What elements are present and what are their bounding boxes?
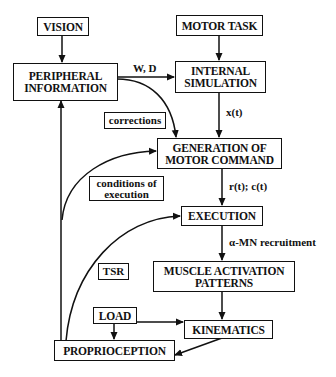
node-load-label: LOAD xyxy=(99,310,131,322)
node-vision: VISION xyxy=(37,17,89,36)
label-w-d: W, D xyxy=(133,62,156,74)
tag-corrections: corrections xyxy=(104,112,166,129)
node-execution-label: EXECUTION xyxy=(188,210,256,222)
label-alpha-mn-recruitment: α-MN recruitment xyxy=(229,236,316,248)
node-proprioception-label: PROPRIOCEPTION xyxy=(63,345,166,357)
node-kinematics: KINEMATICS xyxy=(184,320,273,339)
tag-corrections-label: corrections xyxy=(109,115,161,126)
node-kinematics-label: KINEMATICS xyxy=(192,324,265,336)
diagram-connectors xyxy=(0,0,336,377)
node-load: LOAD xyxy=(93,307,137,324)
node-proprioception: PROPRIOCEPTION xyxy=(54,340,175,361)
node-internal-simulation: INTERNAL SIMULATION xyxy=(175,61,266,93)
tag-conditions-of-execution: conditions of execution xyxy=(89,176,164,201)
tag-tsr: TSR xyxy=(98,263,129,280)
node-generation-of-motor-command: GENERATION OF MOTOR COMMAND xyxy=(157,138,282,169)
node-peripheral-information-label: PERIPHERAL INFORMATION xyxy=(24,70,107,94)
node-peripheral-information: PERIPHERAL INFORMATION xyxy=(13,63,118,101)
node-vision-label: VISION xyxy=(43,21,83,33)
tag-conditions-of-execution-label: conditions of execution xyxy=(96,178,156,200)
label-x-t: x(t) xyxy=(226,106,243,118)
node-motor-task-label: MOTOR TASK xyxy=(182,20,258,32)
node-internal-simulation-label: INTERNAL SIMULATION xyxy=(184,65,257,89)
tag-tsr-label: TSR xyxy=(103,266,124,277)
node-muscle-activation-patterns: MUSCLE ACTIVATION PATTERNS xyxy=(153,261,295,292)
arrow-kinematics-to-proprioception xyxy=(175,338,222,355)
node-muscle-activation-patterns-label: MUSCLE ACTIVATION PATTERNS xyxy=(164,265,284,289)
node-generation-of-motor-command-label: GENERATION OF MOTOR COMMAND xyxy=(165,142,274,166)
label-r-t-c-t: r(t); c(t) xyxy=(229,180,267,192)
node-execution: EXECUTION xyxy=(181,206,263,226)
node-motor-task: MOTOR TASK xyxy=(176,15,263,36)
